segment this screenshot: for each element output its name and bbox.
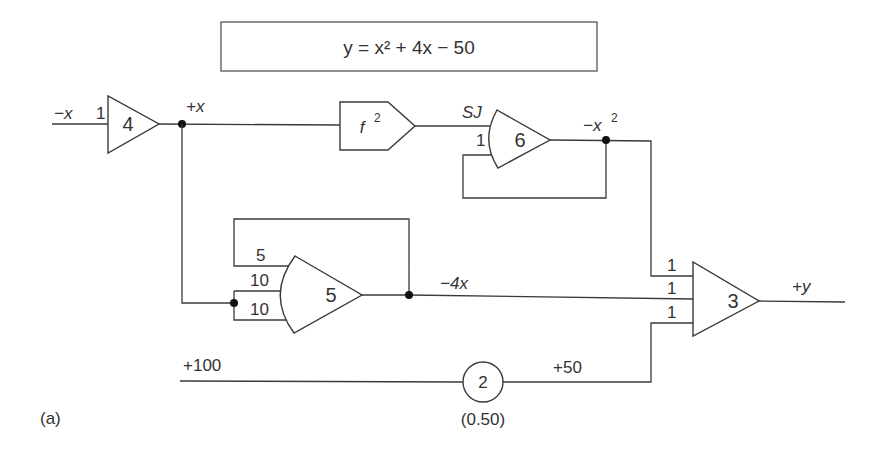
amp3-gain-3: 1 [667,303,676,322]
plus-50-label: +50 [553,358,582,377]
amp5-gain-3: 10 [250,300,269,319]
junction-minus-4x [405,291,413,299]
figure-caption: (a) [40,409,61,428]
plus-y-wire [759,301,845,302]
amp3-gain-1: 1 [667,256,676,275]
pot-setting: (0.50) [461,410,505,429]
junction-amp5-inputs [230,299,238,307]
amp6-label: 6 [514,129,525,151]
pot-label: 2 [478,373,487,392]
equation-box: y = x² + 4x − 50 [221,22,597,71]
analog-computer-diagram: y = x² + 4x − 50 −x 1 4 +x f 2 SJ 6 1 −x… [0,0,871,459]
plus-x-wire [159,124,340,125]
ref-100-label: +100 [183,356,221,375]
input-signal-label: −x [54,104,73,123]
fg-exponent: 2 [374,111,381,125]
equation-text: y = x² + 4x − 50 [343,37,475,58]
minus-x-sq-exp: 2 [611,111,618,125]
potentiometer-2[interactable]: 2 [463,362,503,402]
amp3-gain-2: 1 [667,279,676,298]
minus-4x-label: −4x [440,274,468,293]
amp5-label: 5 [325,284,336,306]
ref-100-wire [180,381,463,382]
amp4-label: 4 [122,113,133,135]
amplifier-4: 4 [108,96,159,153]
sj-label: SJ [462,103,482,122]
amp6-gain-label: 1 [476,131,485,150]
amplifier-5: 5 [280,256,362,333]
function-generator-f2: f 2 [340,102,415,150]
plus-y-label: +y [792,277,812,296]
amp5-gain-1: 5 [256,246,265,265]
plus-x-label: +x [186,97,205,116]
plus-x-to-amp5-wire [182,124,234,303]
amplifier-3: 3 [693,262,759,336]
junction-minus-x-sq [602,136,610,144]
amp3-label: 3 [727,290,738,312]
minus-x-sq-label: −x [583,116,602,135]
amp4-gain-label: 1 [96,104,105,123]
plus-50-wire [503,323,693,382]
amp5-gain-2: 10 [250,271,269,290]
amplifier-6: 6 [489,110,550,168]
